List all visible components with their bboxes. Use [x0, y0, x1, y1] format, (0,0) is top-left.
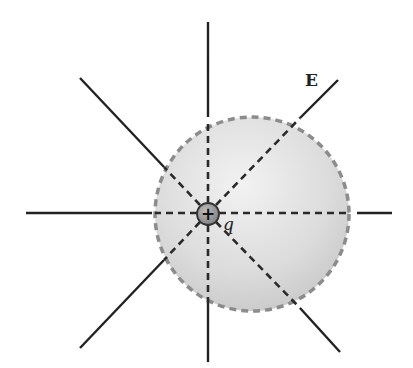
- point-charge: +: [197, 203, 219, 225]
- field-line-upper-left: [80, 78, 164, 167]
- field-diagram: + E q: [0, 0, 413, 368]
- charge-label: q: [223, 214, 234, 234]
- field-line-lower-right: [300, 308, 340, 352]
- charge-sign: +: [201, 204, 215, 224]
- field-label: E: [305, 70, 318, 90]
- field-line-lower-left: [80, 260, 164, 348]
